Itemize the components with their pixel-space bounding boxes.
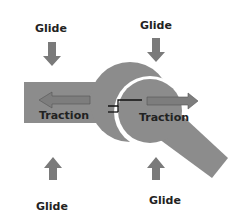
right-bone <box>118 79 228 178</box>
glide-bottom-right-label: Glide <box>149 194 181 207</box>
traction-right-label: Traction <box>139 111 189 124</box>
glide-top-left-label: Glide <box>35 22 67 35</box>
glide-bottom-left-label: Glide <box>36 200 68 213</box>
glide-bottom-left-arrow-icon <box>44 157 62 180</box>
joint-glide-traction-diagram: Glide Glide Glide Glide Traction Tractio… <box>0 0 234 219</box>
glide-bottom-right-arrow-icon <box>147 157 165 180</box>
glide-top-right-label: Glide <box>140 19 172 32</box>
traction-left-label: Traction <box>39 109 89 122</box>
glide-top-left-arrow-icon <box>43 42 61 66</box>
glide-top-right-arrow-icon <box>147 38 165 62</box>
